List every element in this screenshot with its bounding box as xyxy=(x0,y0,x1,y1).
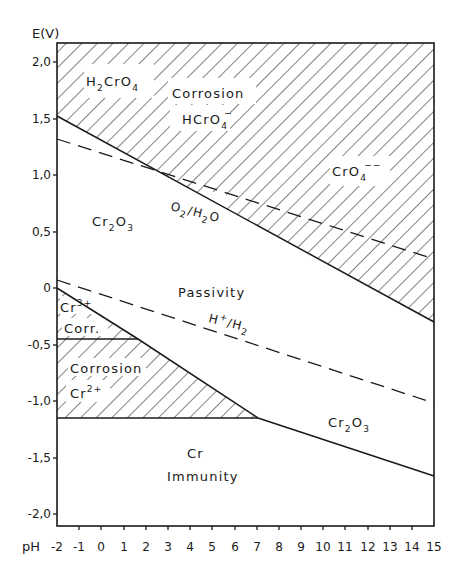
svg-text:14: 14 xyxy=(404,540,419,554)
svg-text:15: 15 xyxy=(426,540,441,554)
y-axis-label: E(V) xyxy=(32,26,59,41)
svg-text:2: 2 xyxy=(142,540,150,554)
svg-text:13: 13 xyxy=(382,540,397,554)
svg-text:-1,5: -1,5 xyxy=(28,451,51,465)
label-corrosion-cr2: Corrosion xyxy=(70,361,143,376)
svg-text:0: 0 xyxy=(97,540,105,554)
svg-text:-1,0: -1,0 xyxy=(28,394,51,408)
svg-text:0: 0 xyxy=(43,281,51,295)
svg-text:9: 9 xyxy=(297,540,305,554)
pourbaix-chart: E(V) pH 2,0 1,5 1,0 0,5 0 -0,5 -1,0 -1,5… xyxy=(0,0,466,579)
label-immunity: Immunity xyxy=(167,469,239,484)
svg-text:2,0: 2,0 xyxy=(32,55,51,69)
svg-text:1,0: 1,0 xyxy=(32,168,51,182)
label-h-h2: H+/H2 xyxy=(207,309,252,337)
label-cr: Cr xyxy=(187,446,204,461)
label-corrosion-top: Corrosion xyxy=(172,86,245,101)
svg-text:8: 8 xyxy=(275,540,283,554)
label-cr2o3-upper: Cr2O3 xyxy=(92,214,134,233)
svg-text:-2: -2 xyxy=(51,540,63,554)
svg-text:7: 7 xyxy=(253,540,261,554)
svg-text:-0,5: -0,5 xyxy=(28,338,51,352)
svg-text:-1: -1 xyxy=(73,540,85,554)
svg-text:5: 5 xyxy=(208,540,216,554)
x-axis-label: pH xyxy=(22,539,40,554)
svg-text:1: 1 xyxy=(120,540,128,554)
x-tick-labels: -2 -1 0 1 2 3 4 5 6 7 8 9 10 11 12 13 14… xyxy=(51,540,442,554)
svg-text:10: 10 xyxy=(315,540,330,554)
label-corr-short: Corr. xyxy=(64,321,100,336)
label-cr2o3-lower: Cr2O3 xyxy=(328,415,370,434)
svg-text:3: 3 xyxy=(164,540,172,554)
svg-text:-2,0: -2,0 xyxy=(28,507,51,521)
svg-text:0,5: 0,5 xyxy=(32,225,51,239)
svg-text:6: 6 xyxy=(231,540,239,554)
svg-text:4: 4 xyxy=(186,540,194,554)
y-tick-labels: 2,0 1,5 1,0 0,5 0 -0,5 -1,0 -1,5 -2,0 xyxy=(28,55,51,521)
label-passivity: Passivity xyxy=(178,285,245,300)
svg-text:11: 11 xyxy=(337,540,352,554)
svg-text:12: 12 xyxy=(360,540,375,554)
svg-text:1,5: 1,5 xyxy=(32,112,51,126)
